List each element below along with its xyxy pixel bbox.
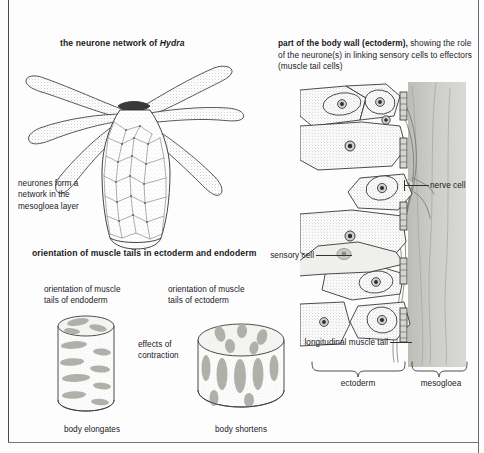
page-frame-right-rule	[478, 0, 479, 453]
hydra-title-italic: Hydra	[160, 38, 185, 48]
hydra-network-annotation: neurones form a network in the mesogloea…	[18, 178, 114, 212]
longitudinal-muscle-tail-label: longitudinal muscle tail	[300, 337, 388, 348]
hydra-annotation-line-1: neurones form a	[18, 178, 114, 189]
hydra-annotation-line-3: mesogloea layer	[18, 201, 114, 212]
hydra-panel-title: the neurone network of Hydra	[60, 38, 270, 49]
endoderm-orientation-line-1: orientation of muscle	[44, 284, 148, 295]
endoderm-cylinder-figure	[44, 312, 136, 416]
hydra-title-prefix: the neurone network of	[60, 38, 160, 48]
body-elongates-caption: body elongates	[46, 424, 138, 435]
ectoderm-brace-label: ectoderm	[318, 378, 398, 389]
ectoderm-orientation-line-1: orientation of muscle	[168, 284, 272, 295]
page-frame-left-rule	[8, 0, 9, 443]
nerve-cell-leader-line	[405, 185, 429, 186]
muscle-tails-panel-heading: orientation of muscle tails in ectoderm …	[32, 248, 282, 259]
longitudinal-muscle-tail-leader-line	[390, 342, 412, 343]
ectoderm-cylinder-figure	[190, 318, 292, 416]
page-frame-bottom-rule	[8, 442, 478, 443]
diagram-page: the neurone network of Hydra	[0, 0, 484, 453]
endoderm-orientation-label: orientation of muscle tails of endoderm	[44, 284, 148, 307]
body-wall-drawing	[300, 82, 478, 367]
nerve-cell-leader-tick	[404, 180, 405, 191]
hydra-drawing	[14, 52, 264, 257]
body-wall-panel-title: part of the body wall (ectoderm), showin…	[278, 38, 474, 73]
body-wall-title-bold: part of the body wall (ectoderm),	[278, 38, 408, 48]
ectoderm-orientation-label: orientation of muscle tails of ectoderm	[168, 284, 272, 307]
nerve-cell-label: nerve cell	[430, 180, 478, 191]
hydra-annotation-line-2: network in the	[18, 189, 114, 200]
endoderm-orientation-line-2: tails of endoderm	[44, 295, 148, 306]
mesogloea-brace-label: mesogloea	[408, 378, 474, 389]
ectoderm-orientation-line-2: tails of ectoderm	[168, 295, 272, 306]
sensory-cell-leader-line	[316, 255, 352, 256]
body-shortens-caption: body shortens	[190, 424, 292, 435]
